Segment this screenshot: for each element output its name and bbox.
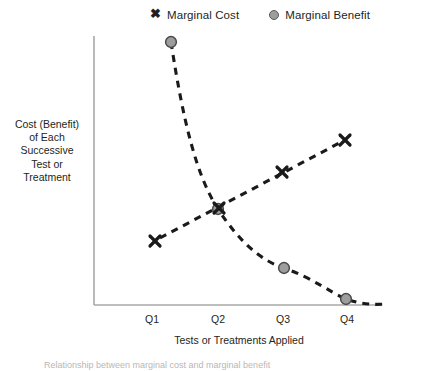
x-tick-label-q1: Q1 [132, 313, 172, 325]
x-tick-label-q4: Q4 [327, 313, 367, 325]
series-line-marginal-benefit [171, 42, 385, 304]
y-axis-label-line-5: Treatment [4, 171, 90, 184]
y-axis-label: Cost (Benefit) of Each Successive Test o… [4, 118, 90, 184]
chart-figure: ✖ Marginal Cost Marginal Benefit [0, 0, 427, 371]
y-axis-label-line-1: Cost (Benefit) [4, 118, 90, 131]
x-tick-label-q2: Q2 [198, 313, 238, 325]
data-point-cost-q4 [340, 135, 350, 145]
y-axis-label-line-4: Test or [4, 158, 90, 171]
y-axis-label-line-2: of Each [4, 131, 90, 144]
data-point-cost-q3 [277, 167, 287, 177]
data-point-cost-q1 [150, 236, 160, 246]
y-axis-label-line-3: Successive [4, 144, 90, 157]
data-point-benefit-q1 [166, 37, 177, 48]
x-axis-label: Tests or Treatments Applied [94, 334, 384, 346]
data-point-benefit-q3 [279, 263, 290, 274]
data-point-benefit-q4 [341, 294, 352, 305]
clipped-caption: Relationship between marginal cost and m… [44, 360, 384, 371]
series-line-marginal-cost [160, 140, 345, 238]
x-tick-label-q3: Q3 [263, 313, 303, 325]
